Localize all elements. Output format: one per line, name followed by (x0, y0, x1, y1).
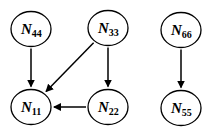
graph-diagram: N44N33N66N11N22N55 (0, 0, 212, 133)
nodes: N44N33N66N11N22N55 (11, 11, 201, 126)
node-N33: N33 (88, 11, 128, 46)
node-N55: N55 (161, 91, 201, 126)
node-N22: N22 (88, 90, 128, 125)
node-N66: N66 (161, 13, 201, 48)
edge-N33-to-N11 (46, 43, 94, 92)
node-N44: N44 (11, 12, 51, 47)
graph-svg: N44N33N66N11N22N55 (0, 0, 212, 133)
node-N11: N11 (11, 90, 51, 125)
